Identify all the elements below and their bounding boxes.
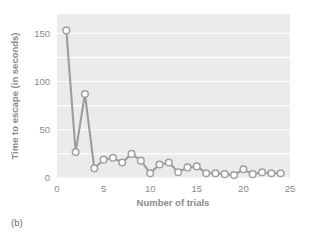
data-point-marker [156, 161, 163, 168]
x-axis-tick-label: 5 [101, 183, 106, 194]
data-point-marker [138, 157, 145, 164]
panel-caption: (b) [11, 217, 23, 228]
data-point-marker [240, 166, 247, 173]
x-axis-tick-label: 10 [145, 183, 156, 194]
data-point-marker [175, 169, 182, 176]
data-point-marker [231, 172, 238, 179]
data-point-marker [82, 91, 89, 98]
x-axis-tick-label: 20 [238, 183, 249, 194]
data-point-marker [63, 27, 70, 34]
data-point-marker [119, 159, 126, 166]
figure-panel: 050100150 0510152025 Time to escape (in … [0, 0, 316, 236]
data-point-marker [194, 163, 201, 170]
y-axis-tick-label: 100 [34, 76, 50, 87]
data-point-marker [166, 159, 173, 166]
x-axis-tick-label: 25 [285, 183, 296, 194]
x-axis-title: Number of trials [137, 197, 210, 208]
data-point-marker [100, 156, 107, 163]
data-point-marker [147, 170, 154, 177]
data-point-marker [212, 170, 219, 177]
data-point-marker [72, 149, 79, 156]
x-axis-tick-label: 15 [192, 183, 203, 194]
data-point-marker [203, 170, 210, 177]
x-axis-tick-labels: 0510152025 [54, 183, 295, 194]
escape-time-line-chart: 050100150 0510152025 Time to escape (in … [0, 0, 316, 236]
data-point-marker [268, 170, 275, 177]
data-point-marker [128, 151, 135, 158]
data-point-marker [259, 169, 266, 176]
data-point-marker [110, 154, 117, 161]
y-axis-tick-label: 50 [39, 124, 50, 135]
y-axis-tick-label: 0 [45, 172, 50, 183]
data-point-marker [249, 171, 256, 178]
data-point-marker [221, 171, 228, 178]
y-axis-title: Time to escape (in seconds) [9, 32, 20, 159]
data-point-marker [277, 170, 284, 177]
data-point-marker [91, 165, 98, 172]
data-point-marker [184, 164, 191, 171]
x-axis-tick-label: 0 [54, 183, 59, 194]
y-axis-tick-labels: 050100150 [34, 28, 50, 184]
y-axis-tick-label: 150 [34, 28, 50, 39]
